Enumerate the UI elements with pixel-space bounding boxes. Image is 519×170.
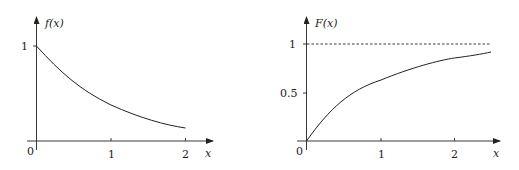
left-xtick-label-2: 2 [182,148,189,161]
right-plot: F(x) 1 0.5 0 1 2 x [280,17,500,161]
right-curve [307,52,492,141]
right-origin-label: 0 [296,145,303,158]
right-xtick-label-1: 1 [378,148,385,161]
left-xtick-label-1: 1 [108,148,115,161]
right-ytick-label-1: 1 [289,38,296,51]
left-xlabel: x [205,147,212,160]
left-origin-label: 0 [27,145,34,158]
right-xtick-label-2: 2 [451,148,458,161]
left-ytick-label-1: 1 [21,40,28,53]
right-ytick-label-05: 0.5 [280,87,298,100]
left-curve [37,46,186,128]
left-ylabel: f(x) [44,17,64,30]
right-ylabel: F(x) [314,17,337,30]
right-xlabel: x [493,147,500,160]
figure: f(x) 1 0 1 2 x F(x) 1 0.5 0 1 2 x [0,0,519,170]
left-plot: f(x) 1 0 1 2 x [21,17,213,161]
